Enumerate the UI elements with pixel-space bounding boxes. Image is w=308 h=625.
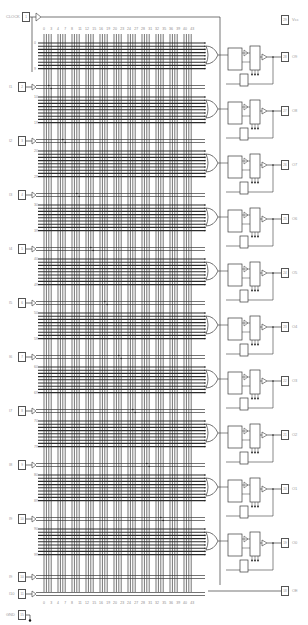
row-label: 40 — [34, 257, 38, 261]
top-column-label: 15 — [92, 27, 96, 31]
output-pin[interactable]: 19 — [281, 538, 289, 548]
ground-icon — [254, 398, 256, 400]
output-buffer-icon — [262, 378, 267, 384]
junction-dot — [204, 65, 206, 67]
junction-dot — [204, 223, 206, 225]
input-label: I9 — [9, 575, 12, 579]
row-label: 70 — [34, 419, 38, 423]
input-pin[interactable]: 9 — [18, 460, 26, 470]
or-gate-icon — [206, 262, 218, 280]
row-label: 9 — [34, 67, 36, 71]
or-gate-icon — [206, 532, 218, 550]
vcc-label: Vcc — [292, 18, 299, 22]
junction-dot — [204, 369, 206, 371]
input-pin[interactable]: 10 — [18, 514, 26, 524]
output-mux — [250, 154, 260, 178]
output-pin[interactable]: 25 — [281, 214, 289, 224]
input-pin[interactable]: 3 — [18, 136, 26, 146]
junction-dot — [204, 385, 206, 387]
flip-flop — [228, 210, 242, 232]
bottom-column-label: 20 — [113, 601, 117, 605]
junction-dot — [204, 366, 206, 368]
flip-flop — [228, 102, 242, 124]
oe-control-block — [240, 344, 248, 356]
bottom-column-label: 15 — [92, 601, 96, 605]
top-column-label: 4 — [57, 27, 59, 31]
flip-flop — [228, 48, 242, 70]
schematic-canvas — [0, 0, 308, 625]
junction-dot — [204, 477, 206, 479]
input-pin[interactable]: 10 — [18, 572, 26, 582]
bottom-column-label: 23 — [120, 601, 124, 605]
input-label: I9 — [9, 517, 12, 521]
row-label: 59 — [34, 337, 38, 341]
input-pin[interactable]: 8 — [18, 406, 26, 416]
junction-dot — [204, 427, 206, 429]
oe-output-pin[interactable]: 18 — [281, 586, 289, 596]
ground-icon — [257, 506, 259, 508]
output-label: O3 — [292, 379, 297, 383]
input-pin[interactable]: 5 — [18, 244, 26, 254]
output-label: O0 — [292, 541, 297, 545]
output-pin[interactable]: 28 — [281, 52, 289, 62]
junction-dot — [204, 554, 206, 556]
bottom-column-label: 12 — [85, 601, 89, 605]
junction-dot — [204, 436, 206, 438]
oe-control-block — [240, 236, 248, 248]
ground-icon — [251, 452, 253, 454]
output-pin[interactable]: 20 — [281, 484, 289, 494]
junction-dot — [204, 68, 206, 70]
bottom-column-label: 40 — [183, 601, 187, 605]
output-pin[interactable]: 21 — [281, 430, 289, 440]
junction-dot — [204, 497, 206, 499]
input-pin[interactable]: 7 — [18, 352, 26, 362]
input-pin[interactable]: 11 — [18, 589, 26, 599]
input-buffer-icon — [32, 354, 36, 360]
top-column-label: 27 — [134, 27, 138, 31]
junction-dot — [204, 119, 206, 121]
junction-dot — [204, 122, 206, 124]
gnd-pin[interactable]: 15 — [18, 610, 26, 620]
oe-output-label: OE — [292, 589, 298, 593]
input-pin[interactable]: 6 — [18, 298, 26, 308]
clock-input-pin[interactable]: 1 — [22, 12, 30, 22]
clock-buffer-icon — [36, 13, 41, 21]
input-pin[interactable]: 2 — [18, 82, 26, 92]
row-label: 99 — [34, 553, 38, 557]
input-buffer-icon — [32, 462, 36, 468]
junction-dot — [204, 153, 206, 155]
junction-dot — [148, 466, 150, 468]
junction-dot — [106, 304, 108, 306]
output-label: O6 — [292, 217, 297, 221]
junction-dot — [204, 490, 206, 492]
junction-dot — [48, 85, 50, 87]
output-mux — [250, 316, 260, 340]
ground-icon — [254, 290, 256, 292]
input-buffer-icon — [32, 574, 36, 580]
input-buffer-icon — [32, 300, 36, 306]
row-label: 19 — [34, 121, 38, 125]
junction-dot — [204, 319, 206, 321]
junction-dot — [204, 115, 206, 117]
junction-dot — [78, 196, 80, 198]
output-pin[interactable]: 26 — [281, 160, 289, 170]
output-label: O7 — [292, 163, 297, 167]
output-pin[interactable]: 27 — [281, 106, 289, 116]
output-buffer-icon — [262, 540, 267, 546]
top-column-label: 19 — [106, 27, 110, 31]
junction-dot — [204, 160, 206, 162]
output-pin[interactable]: 23 — [281, 322, 289, 332]
junction-dot — [204, 271, 206, 273]
top-column-label: 8 — [71, 27, 73, 31]
junction-dot — [204, 493, 206, 495]
output-pin[interactable]: 22 — [281, 376, 289, 386]
input-label: I5 — [9, 301, 12, 305]
vcc-pin[interactable]: 29 — [281, 15, 289, 25]
input-pin[interactable]: 4 — [18, 190, 26, 200]
junction-dot — [204, 45, 206, 47]
or-gate-icon — [206, 424, 218, 442]
output-pin[interactable]: 24 — [281, 268, 289, 278]
junction-dot — [204, 106, 206, 108]
ground-icon — [254, 74, 256, 76]
junction-dot — [204, 157, 206, 159]
